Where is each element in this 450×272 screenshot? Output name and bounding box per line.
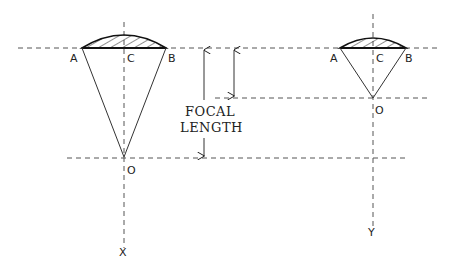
label-b-left: B bbox=[168, 52, 176, 65]
focal-length-label-line2: LENGTH bbox=[180, 120, 243, 135]
lens-right bbox=[340, 38, 406, 48]
label-c-right: C bbox=[376, 52, 384, 65]
label-c-left: C bbox=[127, 52, 135, 65]
focal-length-label-line1: FOCAL bbox=[185, 104, 235, 119]
focal-length-diagram: A C B O X A C B O Y FOCAL LENGTH bbox=[0, 0, 450, 272]
label-x-axis: X bbox=[119, 246, 127, 259]
label-y-axis: Y bbox=[367, 226, 375, 239]
ray-a-to-o bbox=[82, 48, 124, 157]
label-a-left: A bbox=[70, 52, 78, 65]
label-o-right: O bbox=[375, 104, 384, 117]
lens-left bbox=[82, 35, 166, 48]
label-o-left: O bbox=[127, 164, 136, 177]
left-lens-group: A C B O X bbox=[70, 22, 176, 259]
label-b-right: B bbox=[405, 52, 413, 65]
ray-a-to-o-right bbox=[340, 48, 373, 98]
right-lens-group: A C B O Y bbox=[330, 14, 413, 239]
label-a-right: A bbox=[330, 52, 338, 65]
